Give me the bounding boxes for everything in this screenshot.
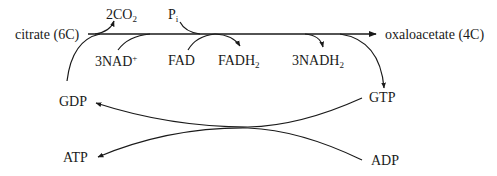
pi-subscript: i [176,14,179,24]
gdp-label: GDP [59,95,87,109]
fadh2-base: FADH [218,53,255,68]
oxaloacetate-label: oxaloacetate (4C) [385,28,484,42]
co2-label: 2CO2 [106,8,137,24]
nad-base: 3NAD [95,54,132,69]
nadh2-base: 3NADH [292,53,339,68]
fad-input-arrow [188,34,215,50]
fad-label: FAD [168,54,195,68]
nad-input-arrow [118,34,150,50]
nad-label: 3NAD+ [95,54,137,69]
co2-base: 2CO [106,7,132,22]
nadh2-release-arrow [305,34,323,47]
nadh2-label: 3NADH2 [292,54,344,70]
nadh2-subscript: 2 [339,60,344,70]
gtp-output-arrow [340,34,384,88]
citrate-label: citrate (6C) [15,28,79,42]
fadh2-label: FADH2 [218,54,260,70]
pi-input-arrow [180,22,200,34]
atp-label: ATP [63,151,88,165]
fadh2-subscript: 2 [255,60,260,70]
pi-base: P [168,7,176,22]
gtp-label: GTP [369,91,395,105]
adp-to-atp-arrow [98,128,362,160]
gtp-to-gdp-arrow [96,98,362,127]
pi-label: Pi [168,8,178,24]
adp-label: ADP [371,154,399,168]
co2-subscript: 2 [132,14,137,24]
fadh2-release-arrow [215,34,240,46]
nad-superscript: + [132,53,137,63]
